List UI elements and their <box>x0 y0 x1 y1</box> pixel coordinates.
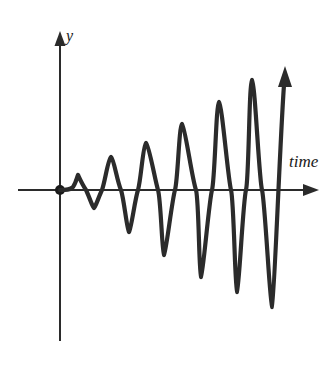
oscillation-curve-path <box>60 80 284 307</box>
oscillation-end-arrowhead-icon <box>278 66 292 87</box>
y-axis-label: y <box>66 27 73 45</box>
y-axis-arrowhead-icon <box>55 31 66 46</box>
figure-canvas: y time <box>0 0 326 366</box>
oscillation-curve <box>60 66 292 307</box>
time-axis-arrowhead-icon <box>303 184 319 196</box>
oscillation-plot <box>0 0 326 366</box>
time-axis-label: time <box>289 152 318 172</box>
